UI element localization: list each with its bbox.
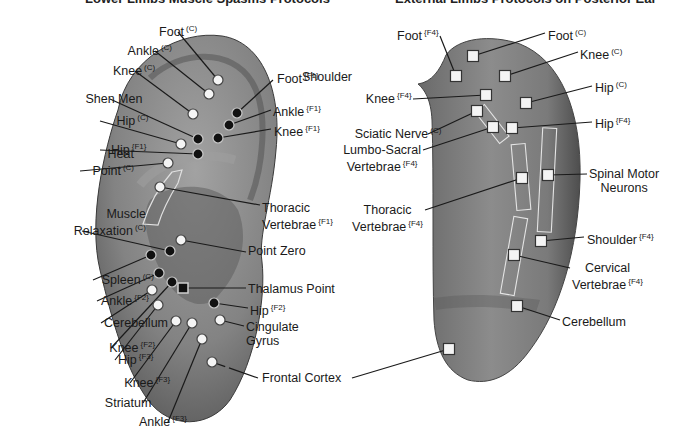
label-text: Point	[92, 164, 121, 178]
posterior-ear	[418, 39, 580, 382]
square-point-marker-icon	[444, 344, 455, 355]
label-point-zero: Point Zero	[248, 244, 306, 258]
label-spinal-motor: Spinal MotorNeurons	[589, 167, 659, 195]
white-point-marker-icon	[155, 182, 165, 192]
label-text: Neurons	[600, 181, 647, 195]
protocol-code: {F1}	[318, 217, 333, 226]
label-text: Foot	[397, 29, 422, 43]
black-point-marker-icon	[154, 268, 164, 278]
label-text: Lumbo-Sacral	[343, 143, 421, 157]
label-thoracic-f4: ThoracicVertebrae{F4}	[352, 203, 423, 234]
label-thalamus: Thalamus Point	[248, 282, 335, 296]
label-thoracic-f1: ThoracicVertebrae{F1}	[262, 201, 333, 232]
label-heat-point: HeatPoint(C)	[26, 147, 134, 178]
protocol-code: {F3}	[172, 414, 187, 423]
protocol-code: (C)	[123, 163, 134, 172]
black-point-marker-icon	[165, 246, 175, 256]
square-marker-icon	[178, 283, 188, 293]
white-point-marker-icon	[207, 357, 217, 367]
label-ankle-f1: Ankle{F1}	[273, 102, 321, 119]
protocol-code: {F4}	[424, 28, 439, 37]
label-ankle-f2: Ankle{F2}	[43, 291, 149, 308]
label-text: Hip	[250, 304, 269, 318]
square-point-marker-icon	[536, 236, 547, 247]
label-sciatic: Sciatic Nerve(C)	[320, 124, 442, 141]
white-point-marker-icon	[187, 318, 197, 328]
label-text: Sciatic Nerve	[355, 127, 429, 141]
label-foot-c-p: Foot(C)	[548, 26, 586, 43]
label-frontal-cortex: Frontal Cortex	[262, 371, 341, 385]
label-knee-f3: Knee{F3}	[83, 373, 170, 390]
protocol-code: (C)	[137, 113, 148, 122]
label-text: Foot	[159, 25, 184, 39]
square-point-marker-icon	[468, 51, 479, 62]
white-point-marker-icon	[204, 89, 214, 99]
protocol-code: {F3}	[156, 375, 171, 384]
label-text: Cerebellum	[562, 315, 626, 329]
label-striatum: Striatum	[87, 396, 152, 410]
black-point-marker-icon	[224, 120, 234, 130]
label-knee-f4: Knee{F4}	[366, 89, 410, 106]
protocol-code: {F4}	[639, 232, 654, 241]
square-point-marker-icon	[451, 71, 462, 82]
black-point-marker-icon	[193, 134, 203, 144]
protocol-code: (C)	[135, 223, 146, 232]
square-point-marker-icon	[521, 98, 532, 109]
label-foot-c: Foot(C)	[131, 22, 197, 39]
label-text: Ankle	[101, 294, 132, 308]
label-text: Thoracic	[364, 203, 412, 217]
label-text: Ankle	[273, 105, 304, 119]
label-text: Shoulder	[587, 233, 637, 247]
label-ankle-f3: Ankle{F3}	[114, 412, 187, 429]
square-point-marker-icon	[543, 170, 554, 181]
label-text: Point Zero	[248, 244, 306, 258]
label-text: Hip	[117, 114, 136, 128]
white-point-marker-icon	[215, 315, 225, 325]
square-point-marker-icon	[507, 123, 518, 134]
white-point-marker-icon	[163, 158, 173, 168]
label-hip-f2: Hip{F2}	[250, 301, 285, 318]
label-cerebellum-l: Cerebellum	[31, 316, 168, 330]
white-point-marker-icon	[176, 235, 186, 245]
label-hip-c: Hip(C)	[60, 111, 149, 128]
label-text: Knee	[124, 376, 153, 390]
protocol-code: (C)	[143, 272, 154, 281]
label-text: Shen Men	[85, 92, 142, 106]
white-point-marker-icon	[197, 334, 207, 344]
protocol-code: (C)	[575, 28, 586, 37]
label-text: Knee	[113, 64, 142, 78]
label-text: Spinal Motor	[589, 167, 659, 181]
protocol-code: {F1}	[306, 104, 321, 113]
label-text: Foot	[277, 72, 302, 86]
label-text: Ankle	[128, 44, 159, 58]
black-point-marker-icon	[213, 133, 223, 143]
label-text: Vertebrae	[262, 218, 316, 232]
label-cingulate: CingulateGyrus	[246, 320, 299, 348]
protocol-code: (C)	[186, 24, 197, 33]
label-text: Knee	[366, 92, 395, 106]
label-text: Foot	[548, 29, 573, 43]
protocol-code: {F1}	[305, 124, 320, 133]
square-point-marker-icon	[517, 173, 528, 184]
protocol-code: (C)	[611, 47, 622, 56]
white-point-marker-icon	[176, 139, 186, 149]
label-text: Thoracic	[262, 201, 310, 215]
square-point-marker-icon	[472, 106, 483, 117]
label-text: Vertebrae	[352, 220, 406, 234]
leader-frontal-cortex-posterior	[352, 349, 449, 378]
white-point-marker-icon	[171, 316, 181, 326]
protocol-code: (C)	[144, 63, 155, 72]
white-point-marker-icon	[153, 300, 163, 310]
label-muscle-relax: MuscleRelaxation(C)	[0, 207, 146, 238]
label-text: Vertebrae	[347, 160, 401, 174]
black-point-marker-icon	[232, 108, 242, 118]
protocol-code: {F4}	[616, 116, 631, 125]
label-text: Striatum	[105, 396, 152, 410]
label-cervical: CervicalVertebrae{F4}	[572, 261, 643, 292]
square-point-marker-icon	[509, 250, 520, 261]
protocol-code: {F4}	[403, 159, 418, 168]
protocol-code: {F2}	[141, 340, 156, 349]
label-text: Cerebellum	[104, 316, 168, 330]
label-text: Relaxation	[74, 224, 133, 238]
label-text: Vertebrae	[572, 278, 626, 292]
